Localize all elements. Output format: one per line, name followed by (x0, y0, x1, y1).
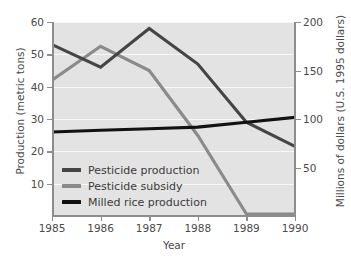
legend-item[interactable]: Pesticide subsidy (62, 179, 207, 193)
y-axis-left-tick (47, 54, 52, 55)
x-axis-title: Year (52, 239, 296, 251)
x-axis-tick-label: 1990 (275, 222, 315, 234)
y-axis-left-tick (47, 184, 52, 185)
y-axis-right-tick-label: 200 (303, 17, 337, 27)
legend-label: Pesticide production (88, 164, 200, 177)
y-axis-right-tick-label: 100 (303, 114, 337, 124)
y-axis-right-tick (296, 168, 301, 169)
y-axis-right-tick-label: 50 (303, 163, 337, 173)
x-axis-tick (246, 216, 247, 221)
x-axis-tick (295, 216, 296, 221)
x-axis-tick (149, 216, 150, 221)
legend-swatch-icon (62, 200, 81, 205)
chart-figure: 102030405060 50100150200 198519861987198… (0, 0, 351, 261)
x-axis-tick-label: 1985 (32, 222, 72, 234)
x-axis-tick-label: 1986 (81, 222, 121, 234)
x-axis-tick (52, 216, 53, 221)
y-axis-left-tick (47, 87, 52, 88)
x-axis-tick-label: 1988 (178, 222, 218, 234)
x-axis-tick (198, 216, 199, 221)
legend-item[interactable]: Pesticide production (62, 163, 207, 177)
y-axis-right-tick (296, 71, 301, 72)
y-axis-right-title: Millions of dollars (U.S. 1995 dollars) (334, 11, 346, 211)
legend-item[interactable]: Milled rice production (62, 195, 207, 209)
legend-swatch-icon (62, 184, 81, 189)
y-axis-right-tick-label: 150 (303, 66, 337, 76)
axis-spine-left (52, 22, 54, 216)
legend-label: Pesticide subsidy (88, 180, 182, 193)
x-axis-tick-label: 1987 (129, 222, 169, 234)
x-axis-tick (101, 216, 102, 221)
y-axis-left-tick (47, 151, 52, 152)
x-axis-tick-label: 1989 (226, 222, 266, 234)
legend-label: Milled rice production (88, 196, 207, 209)
y-axis-right-tick (296, 119, 301, 120)
y-axis-left-tick (47, 22, 52, 23)
axis-spine-bottom (52, 215, 296, 217)
legend-swatch-icon (62, 168, 81, 173)
y-axis-right-tick (296, 22, 301, 23)
y-axis-left-tick (47, 119, 52, 120)
y-axis-left-title: Production (metric tons) (14, 11, 26, 211)
chart-legend: Pesticide productionPesticide subsidyMil… (62, 163, 207, 209)
